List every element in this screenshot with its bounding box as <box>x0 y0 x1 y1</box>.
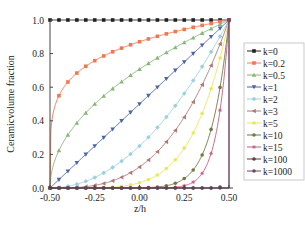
legend-label: k=10 <box>263 131 283 141</box>
x-tick-label: 0.50 <box>221 193 238 203</box>
legend-label: k=3 <box>263 107 278 117</box>
series-k-0 <box>48 18 231 22</box>
legend-label: k=100 <box>263 155 288 165</box>
plot-series <box>48 18 232 191</box>
legend-label: k=0 <box>263 47 278 57</box>
legend-label: k=2 <box>263 95 278 105</box>
chart: 0.00.20.40.60.81.0-0.50-0.250.000.250.50… <box>0 0 305 229</box>
x-tick-label: -0.50 <box>40 193 60 203</box>
y-tick-label: 1.0 <box>32 16 44 26</box>
x-tick-label: 0.00 <box>131 193 148 203</box>
legend: k=0k=0.2k=0.5k=1k=2k=3k=5k=10k=15k=100k=… <box>244 43 304 180</box>
legend-label: k=15 <box>263 143 283 153</box>
y-tick-label: 0.0 <box>32 184 44 194</box>
legend-label: k=0.2 <box>263 59 285 69</box>
legend-label: k=0.5 <box>263 71 285 81</box>
legend-label: k=1 <box>263 83 278 93</box>
legend-label: k=5 <box>263 119 278 129</box>
y-axis-title: Ceramicvolume fraction <box>5 55 16 152</box>
x-axis-title: z/h <box>134 203 146 214</box>
series-k-1 <box>48 18 232 190</box>
x-tick-label: -0.25 <box>85 193 105 203</box>
x-tick-label: 0.25 <box>176 193 193 203</box>
y-tick-label: 0.6 <box>32 83 44 93</box>
legend-label: k=1000 <box>263 167 292 177</box>
y-tick-label: 0.2 <box>32 150 44 160</box>
y-tick-label: 0.8 <box>32 49 44 59</box>
y-tick-label: 0.4 <box>32 116 44 126</box>
